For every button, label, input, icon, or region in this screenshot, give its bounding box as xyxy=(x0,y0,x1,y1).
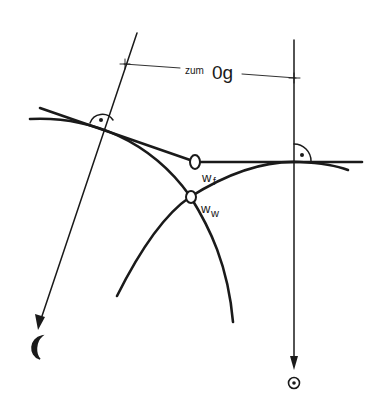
right-angle-mark-left xyxy=(90,114,113,123)
moon-icon xyxy=(32,336,42,359)
svg-text:f: f xyxy=(213,176,216,187)
arrowhead-icon xyxy=(290,356,298,370)
svg-text:w: w xyxy=(210,207,219,219)
arc-left xyxy=(30,119,233,322)
sun-direction-line xyxy=(290,40,298,370)
svg-text:w: w xyxy=(201,170,212,185)
dimension-line: zum 0g xyxy=(120,59,300,83)
point-wf: w f xyxy=(190,155,216,187)
dimension-main-label: 0g xyxy=(212,62,233,83)
diagram-canvas: zum 0g w f w w xyxy=(0,0,385,405)
svg-text:w: w xyxy=(200,201,211,216)
arc-right xyxy=(117,162,348,296)
point-ww: w w xyxy=(186,191,219,219)
right-angle-mark-right xyxy=(294,144,311,161)
sun-icon xyxy=(289,378,300,389)
dimension-prefix-label: zum xyxy=(185,65,204,76)
arrowhead-icon xyxy=(35,314,45,330)
